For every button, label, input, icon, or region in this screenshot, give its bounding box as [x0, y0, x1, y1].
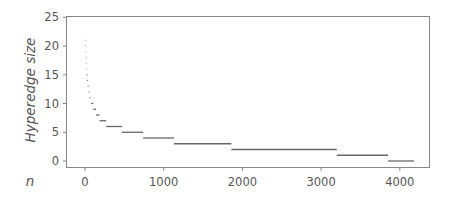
data-point — [87, 80, 88, 81]
x-tick-label: 1000 — [149, 175, 178, 189]
y-tick-label: 5 — [52, 125, 59, 139]
y-axis-label: Hyperedge size — [22, 38, 38, 143]
data-series — [85, 40, 414, 161]
y-tick-label: 15 — [44, 68, 59, 82]
chart: 0510152025 01000200030004000 Hyperedge s… — [0, 0, 452, 202]
x-axis-ticks: 01000200030004000 — [81, 168, 414, 190]
data-point — [86, 63, 87, 64]
x-tick-label: 4000 — [385, 175, 414, 189]
y-tick-label: 10 — [44, 97, 59, 111]
plot-frame — [67, 17, 430, 168]
data-point — [86, 68, 87, 69]
y-tick-label: 0 — [52, 154, 59, 168]
data-point — [85, 40, 86, 41]
x-tick-label: 0 — [81, 175, 88, 189]
x-tick-label: 2000 — [228, 175, 257, 189]
data-point — [88, 91, 89, 92]
y-axis-ticks: 0510152025 — [44, 10, 66, 168]
data-point — [86, 57, 87, 58]
y-tick-label: 20 — [44, 39, 59, 53]
data-point — [86, 74, 87, 75]
data-point — [85, 51, 86, 52]
data-point — [85, 45, 86, 46]
y-tick-label: 25 — [44, 10, 59, 24]
data-point — [88, 86, 89, 87]
data-point — [90, 97, 91, 98]
x-axis-label: n — [26, 173, 35, 189]
x-tick-label: 3000 — [306, 175, 335, 189]
